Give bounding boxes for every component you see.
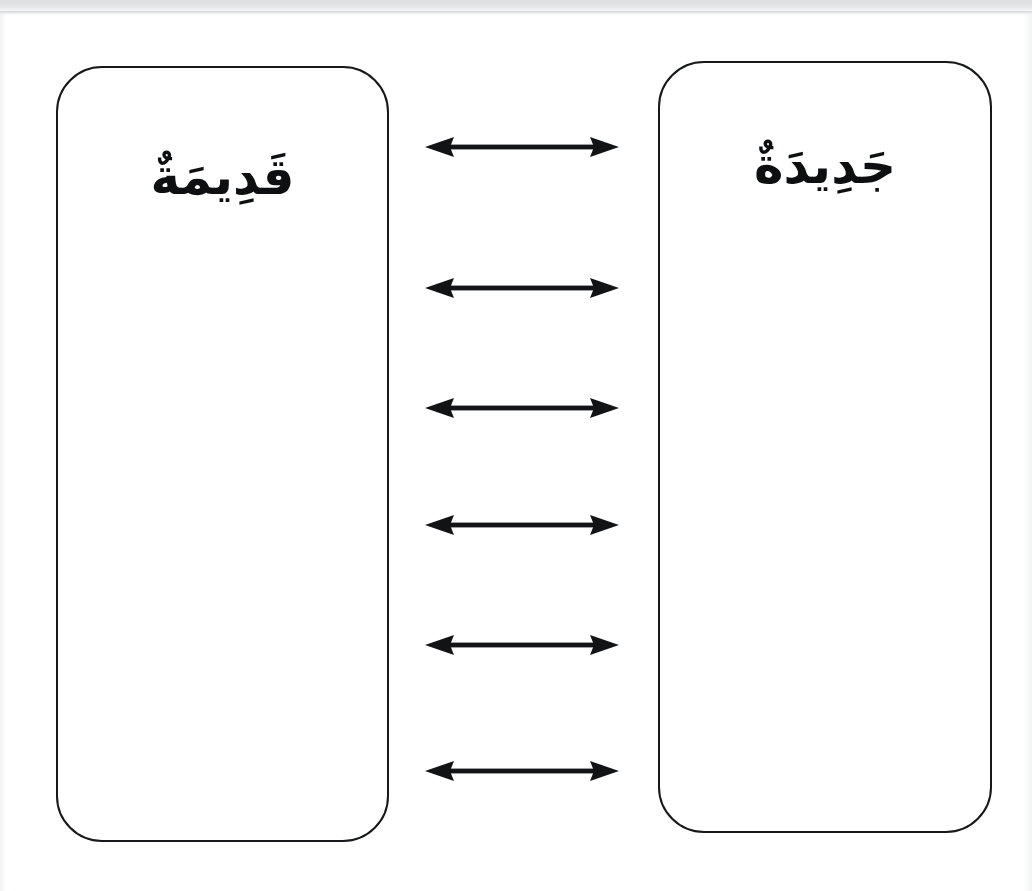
connector-double-headed-arrow-icon[interactable] bbox=[424, 395, 620, 421]
double-headed-arrow-icon bbox=[424, 632, 620, 658]
scan-top-band bbox=[0, 0, 1032, 13]
connector-double-headed-arrow-icon[interactable] bbox=[424, 275, 620, 301]
word-label-right: جَدِيدَةٌ bbox=[660, 135, 990, 198]
scan-left-edge-shadow bbox=[0, 12, 6, 891]
double-headed-arrow-icon bbox=[424, 512, 620, 538]
double-headed-arrow-icon bbox=[424, 395, 620, 421]
word-box-right[interactable]: جَدِيدَةٌ bbox=[658, 61, 992, 833]
scan-right-edge-shadow bbox=[1024, 12, 1032, 891]
connector-double-headed-arrow-icon[interactable] bbox=[424, 758, 620, 784]
double-headed-arrow-icon bbox=[424, 758, 620, 784]
word-box-left[interactable]: قَدِيمَةٌ bbox=[56, 66, 389, 842]
worksheet-page: قَدِيمَةٌ جَدِيدَةٌ bbox=[0, 0, 1032, 891]
word-label-left: قَدِيمَةٌ bbox=[58, 146, 387, 209]
connector-double-headed-arrow-icon[interactable] bbox=[424, 134, 620, 160]
connector-double-headed-arrow-icon[interactable] bbox=[424, 632, 620, 658]
double-headed-arrow-icon bbox=[424, 275, 620, 301]
double-headed-arrow-icon bbox=[424, 134, 620, 160]
connector-double-headed-arrow-icon[interactable] bbox=[424, 512, 620, 538]
